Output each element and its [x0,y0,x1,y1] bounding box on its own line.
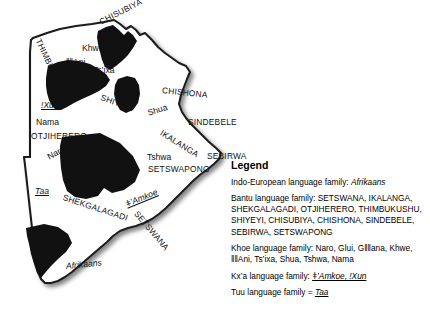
legend-row-bantu: Bantu language family: SETSWANA, IKALANG… [231,193,430,238]
legend-row-tuu: Tuu language family = Taa [231,287,430,298]
botswana-language-map: CHISUBIYA THIMBUKUSHU Khwe ǁǁAni Ts’ixa … [0,0,252,314]
legend-row-indo-european: Indo-European language family: Afrikaans [231,177,430,188]
legend-prefix-kxa: Kx’a language family: [231,271,312,281]
legend-items-tuu: Taa [315,287,329,297]
legend-row-khoe: Khoe language family: Naro, Gǀui, Gǁǁana… [231,243,430,266]
legend-row-kxa: Kx’a language family: ǂ’Amkoe, ǃXun [231,271,430,282]
legend-prefix-indo-european: Indo-European language family: [231,177,351,187]
legend: Legend Indo-European language family: Af… [231,160,430,298]
legend-items-indo-european: Afrikaans [351,177,386,187]
legend-prefix-tuu: Tuu language family = [231,287,315,297]
legend-prefix-khoe: Khoe language family: [231,243,315,253]
legend-prefix-bantu: Bantu language family: [231,193,318,203]
legend-title: Legend [231,160,430,172]
legend-items-kxa: ǂ’Amkoe, ǃXun [312,271,366,281]
map-graphic [0,0,252,314]
